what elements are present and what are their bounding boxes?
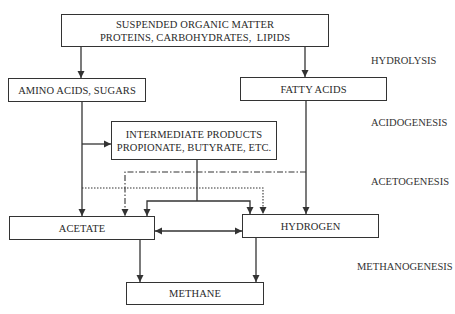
edge-intermediate-hydrogen: [197, 201, 250, 214]
node-acetate: ACETATE: [9, 216, 155, 240]
node-fatty-label: FATTY ACIDS: [280, 83, 346, 96]
node-intermediate-line1: INTERMEDIATE PRODUCTS: [126, 128, 263, 141]
node-suspended-line1: SUSPENDED ORGANIC MATTER: [116, 18, 274, 31]
stage-hydrolysis: HYDROLYSIS: [371, 55, 436, 66]
node-fatty-acids: FATTY ACIDS: [240, 77, 387, 101]
node-amino-acids-sugars: AMINO ACIDS, SUGARS: [8, 78, 146, 102]
stage-acidogenesis: ACIDOGENESIS: [371, 117, 447, 128]
edge-intermediate-acetate: [147, 201, 197, 216]
edge-fatty-acetate-dashdot: [125, 172, 306, 216]
node-amino-label: AMINO ACIDS, SUGARS: [18, 84, 136, 97]
node-intermediate-products: INTERMEDIATE PRODUCTS PROPIONATE, BUTYRA…: [111, 121, 277, 160]
stage-acetogenesis: ACETOGENESIS: [371, 176, 449, 187]
node-suspended-organic-matter: SUSPENDED ORGANIC MATTER PROTEINS, CARBO…: [61, 14, 329, 47]
node-methane: METHANE: [126, 282, 264, 305]
node-suspended-line2: PROTEINS, CARBOHYDRATES, LIPIDS: [100, 31, 290, 44]
node-hydrogen: HYDROGEN: [242, 214, 379, 238]
node-acetate-label: ACETATE: [59, 222, 106, 235]
node-methane-label: METHANE: [169, 287, 221, 300]
anaerobic-digestion-diagram: SUSPENDED ORGANIC MATTER PROTEINS, CARBO…: [0, 0, 455, 314]
stage-methanogenesis: METHANOGENESIS: [357, 261, 453, 272]
node-intermediate-line2: PROPIONATE, BUTYRATE, ETC.: [117, 141, 272, 154]
node-hydrogen-label: HYDROGEN: [281, 220, 341, 233]
